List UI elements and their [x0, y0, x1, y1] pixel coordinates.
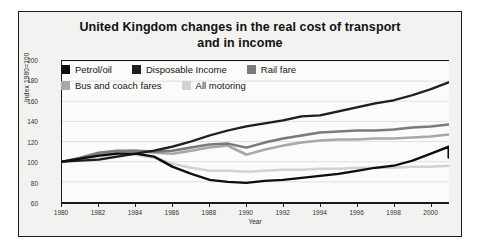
x-tick-mark: [357, 203, 358, 207]
y-tick-label: 160: [27, 97, 38, 104]
legend-item: Rail fare: [247, 64, 296, 75]
x-tick-mark: [283, 203, 284, 207]
chart-figure: United Kingdom changes in the real cost …: [18, 11, 462, 237]
chart-title-line-1: United Kingdom changes in the real cost …: [19, 19, 461, 35]
x-tick-mark: [61, 203, 62, 207]
x-tick-label: 1986: [165, 209, 179, 216]
x-tick-label: 1982: [91, 209, 105, 216]
x-tick-mark: [394, 203, 395, 207]
legend-label: Petrol/oil: [75, 64, 112, 75]
legend-label: Bus and coach fares: [75, 80, 162, 91]
x-tick-mark: [172, 203, 173, 207]
chart-title-line-2: and in income: [19, 35, 461, 51]
x-tick-mark: [209, 203, 210, 207]
legend-swatch-icon: [61, 65, 70, 74]
x-tick-label: 1984: [128, 209, 142, 216]
legend-item: Disposable Income: [132, 64, 227, 75]
legend-item: Petrol/oil: [61, 64, 112, 75]
y-tick-label: 60: [31, 200, 38, 207]
legend-swatch-icon: [61, 81, 70, 90]
x-tick-label: 1990: [239, 209, 253, 216]
x-tick-mark: [320, 203, 321, 207]
y-tick-label: 80: [31, 179, 38, 186]
chart-title: United Kingdom changes in the real cost …: [19, 19, 461, 51]
legend-swatch-icon: [182, 81, 191, 90]
legend-item: All motoring: [182, 80, 246, 91]
y-tick-label: 120: [27, 138, 38, 145]
x-tick-label: 1992: [275, 209, 289, 216]
x-tick-mark: [98, 203, 99, 207]
legend-row-secondary: Bus and coach faresAll motoring: [61, 80, 411, 91]
x-tick-label: 1994: [312, 209, 326, 216]
x-tick-label: 1980: [54, 209, 68, 216]
x-tick-label: 1998: [386, 209, 400, 216]
legend-swatch-icon: [247, 65, 256, 74]
x-axis-line: [61, 203, 449, 204]
y-tick-label: 180: [27, 77, 38, 84]
y-tick-label: 200: [27, 57, 38, 64]
x-tick-mark: [431, 203, 432, 207]
x-axis-label: Year: [61, 218, 449, 225]
legend-item: Bus and coach fares: [61, 80, 162, 91]
x-tick-label: 2000: [423, 209, 437, 216]
y-tick-label: 140: [27, 118, 38, 125]
x-tick-label: 1988: [202, 209, 216, 216]
legend-label: Rail fare: [261, 64, 296, 75]
legend-label: All motoring: [196, 80, 246, 91]
chart-legend: Petrol/oilDisposable IncomeRail fare Bus…: [61, 64, 411, 96]
legend-row-primary: Petrol/oilDisposable IncomeRail fare: [61, 64, 411, 75]
x-tick-mark: [135, 203, 136, 207]
x-tick-mark: [246, 203, 247, 207]
x-tick-label: 1996: [349, 209, 363, 216]
legend-label: Disposable Income: [146, 64, 227, 75]
y-tick-label: 100: [27, 159, 38, 166]
legend-swatch-icon: [132, 65, 141, 74]
